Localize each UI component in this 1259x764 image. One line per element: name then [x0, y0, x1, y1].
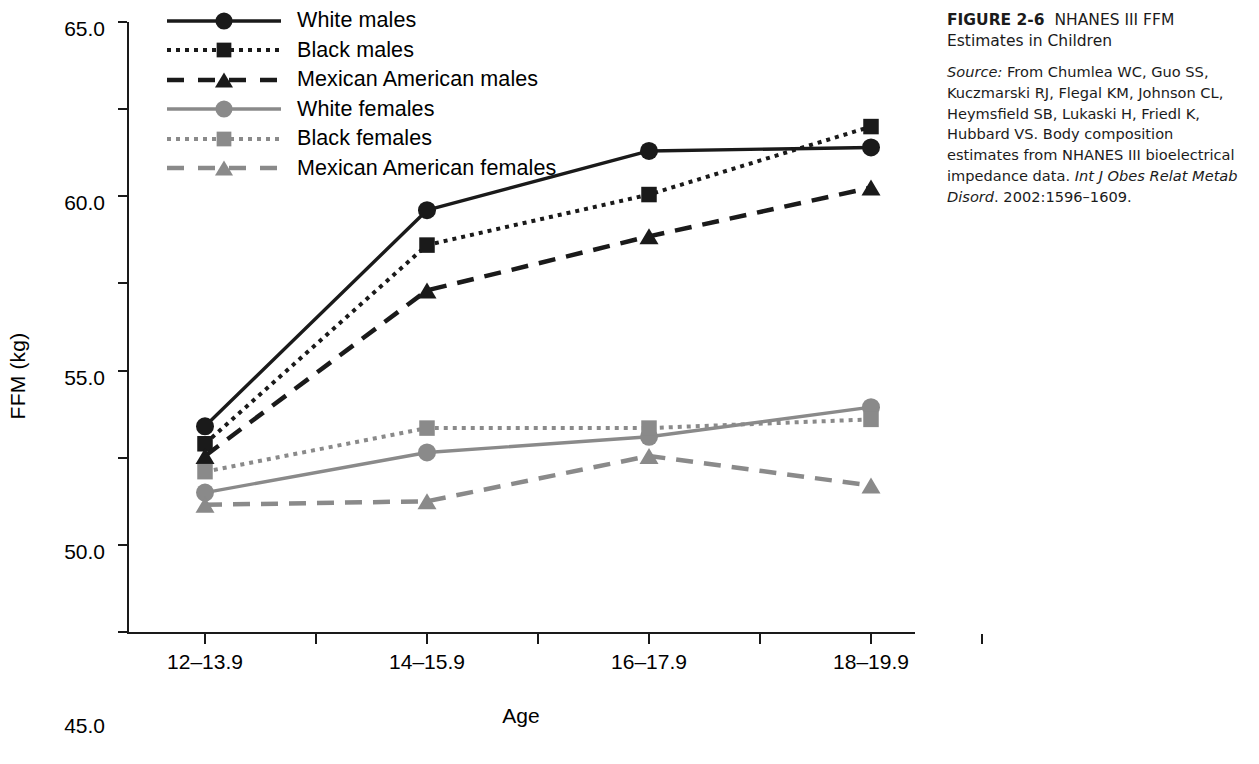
legend-item-white-males[interactable]: White males — [165, 6, 725, 36]
data-point-square-marker — [419, 237, 435, 253]
legend-item-mexican-american-females[interactable]: Mexican American females — [165, 154, 725, 184]
caption-source: Source: From Chumlea WC, Guo SS, Kuczmar… — [947, 62, 1249, 207]
data-point-triangle-marker — [862, 180, 881, 196]
y-tick-label: 50.0 — [64, 540, 105, 564]
legend-swatch — [165, 128, 283, 150]
chart-figure: FFM (kg) 65.060.055.050.045.040.035.030.… — [0, 0, 930, 764]
y-tick-label: 55.0 — [64, 366, 105, 390]
series-group — [196, 448, 881, 513]
legend-swatch — [165, 98, 283, 120]
data-point-circle-marker — [215, 12, 232, 29]
y-tick: 60.0 — [118, 108, 127, 110]
y-tick: 35.0 — [118, 544, 127, 546]
legend-swatch — [165, 69, 283, 91]
data-point-circle-marker — [418, 443, 436, 461]
figure-page: FFM (kg) 65.060.055.050.045.040.035.030.… — [0, 0, 1259, 764]
series-line — [205, 456, 871, 505]
data-point-square-marker — [641, 420, 657, 436]
y-tick: 55.0 — [118, 195, 127, 197]
data-point-square-marker — [419, 420, 435, 436]
legend-swatch — [165, 39, 283, 61]
y-axis-label: FFM (kg) — [6, 276, 30, 476]
y-tick-label: 60.0 — [64, 191, 105, 215]
x-tick — [981, 634, 983, 644]
legend-label: Black females — [297, 126, 432, 151]
y-tick-label: 65.0 — [64, 17, 105, 41]
figure-caption: FIGURE 2-6 NHANES III FFM Estimates in C… — [947, 10, 1249, 207]
legend-label: White males — [297, 8, 416, 33]
data-point-square-marker — [641, 187, 657, 203]
data-point-square-marker — [217, 43, 232, 58]
data-point-circle-marker — [418, 201, 436, 219]
legend-label: Mexican American females — [297, 156, 556, 181]
legend-swatch — [165, 157, 283, 179]
source-text-1: From Chumlea WC, Guo SS, Kuczmarski RJ, … — [947, 63, 1235, 184]
y-tick: 50.0 — [118, 282, 127, 284]
legend-label: Mexican American males — [297, 67, 538, 92]
data-point-circle-marker — [215, 101, 232, 118]
figure-number: FIGURE 2-6 — [947, 11, 1045, 29]
data-point-square-marker — [197, 464, 213, 480]
source-text-2: . 2002:1596–1609. — [994, 188, 1132, 205]
y-tick: 45.0 — [118, 370, 127, 372]
data-point-square-marker — [863, 119, 879, 135]
y-tick-label: 45.0 — [64, 714, 105, 738]
legend-item-white-females[interactable]: White females — [165, 95, 725, 125]
data-point-circle-marker — [862, 138, 880, 156]
y-tick: 65.0 — [118, 21, 127, 23]
y-tick: 40.0 — [118, 457, 127, 459]
series-line — [205, 147, 871, 426]
series-group — [196, 398, 880, 501]
legend-item-black-males[interactable]: Black males — [165, 36, 725, 66]
y-tick: 30.0 — [118, 631, 127, 633]
series-line — [205, 188, 871, 456]
caption-title: FIGURE 2-6 NHANES III FFM Estimates in C… — [947, 10, 1249, 51]
series-group — [196, 138, 880, 435]
data-point-triangle-marker — [862, 478, 881, 494]
data-point-square-marker — [863, 412, 879, 428]
series-line — [205, 407, 871, 492]
x-axis-label: Age — [127, 704, 915, 728]
legend-item-mexican-american-males[interactable]: Mexican American males — [165, 65, 725, 95]
legend-item-black-females[interactable]: Black females — [165, 124, 725, 154]
data-point-square-marker — [217, 131, 232, 146]
chart-legend: White malesBlack malesMexican American m… — [165, 6, 725, 183]
legend-label: Black males — [297, 38, 414, 63]
data-point-circle-marker — [196, 417, 214, 435]
legend-label: White females — [297, 97, 435, 122]
legend-swatch — [165, 10, 283, 32]
source-label: Source: — [947, 63, 1002, 80]
